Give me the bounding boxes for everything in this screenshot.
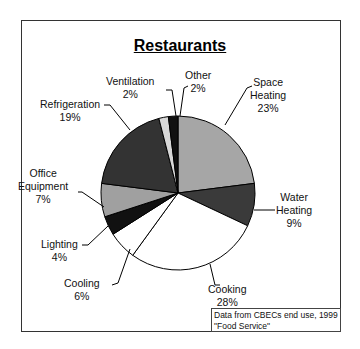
- data-source-note: Data from CBECs end use, 1999 "Food Serv…: [211, 308, 341, 332]
- pie-slice-space-heating: [178, 116, 254, 193]
- label-cooking: Cooking28%: [208, 283, 247, 309]
- label-lighting: Lighting4%: [41, 238, 78, 264]
- label-water-heating: WaterHeating9%: [276, 191, 312, 230]
- label-office-equipment: OfficeEquipment7%: [18, 167, 68, 206]
- label-other: Other2%: [185, 69, 211, 95]
- label-ventilation: Ventilation2%: [106, 75, 154, 101]
- label-refrigeration: Refrigeration19%: [40, 98, 100, 124]
- label-space-heating: SpaceHeating23%: [250, 76, 286, 115]
- label-cooling: Cooling6%: [64, 277, 100, 303]
